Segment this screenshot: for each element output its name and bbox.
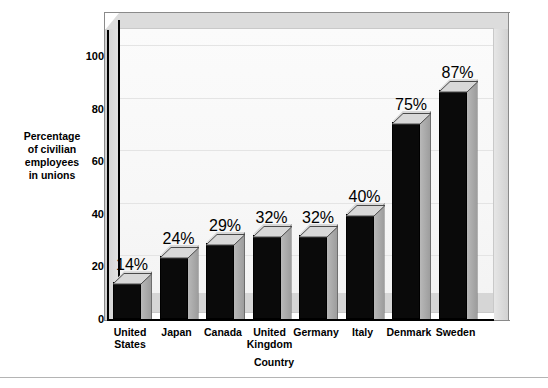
bar-side-face (281, 224, 292, 319)
bar-value-label-denmark: 75% (395, 96, 427, 114)
bar-germany[interactable] (299, 224, 338, 319)
bar-united-states[interactable] (113, 271, 152, 319)
frame-border-top (104, 12, 510, 13)
y-axis-line (107, 30, 109, 321)
y-tick-label-40: 40 (70, 209, 104, 220)
y-tick-label-80: 80 (70, 104, 104, 115)
y-axis-title-line: in unions (6, 169, 98, 182)
bar-italy[interactable] (346, 203, 385, 319)
bar-front-face (113, 282, 141, 319)
x-tick-label-sweden: Sweden (421, 326, 491, 338)
bar-side-face (374, 203, 385, 319)
y-tick-label-0: 0 (70, 314, 104, 325)
chart-figure: 020406080100 Percentageof civilianemploy… (0, 0, 548, 388)
bar-sweden[interactable] (439, 79, 478, 319)
bar-side-face (467, 79, 478, 319)
x-tick-label-line: Kingdom (235, 338, 305, 350)
gridline-100 (119, 45, 493, 46)
bar-denmark[interactable] (392, 111, 431, 319)
bar-front-face (346, 214, 374, 319)
x-axis-line (107, 319, 494, 321)
footer-rule (0, 377, 548, 378)
bar-front-face (206, 243, 234, 319)
bar-front-face (392, 122, 420, 319)
bar-value-label-japan: 24% (163, 230, 195, 248)
gridline-40 (119, 203, 493, 204)
bar-front-face (160, 256, 188, 319)
bar-japan[interactable] (160, 245, 199, 319)
bar-front-face (439, 90, 467, 319)
frame-border-left (104, 12, 105, 321)
y-tick-label-20: 20 (70, 261, 104, 272)
gridline-60 (119, 150, 493, 151)
bar-value-label-united-kingdom: 32% (256, 209, 288, 227)
x-axis-title: Country (0, 356, 548, 368)
plot-frame-right-ledge (494, 29, 509, 321)
x-tick-label-line: Sweden (421, 326, 491, 338)
y-tick-label-100: 100 (70, 51, 104, 62)
bar-side-face (327, 224, 338, 319)
y-axis-title: Percentageof civilianemployeesin unions (6, 130, 98, 182)
bar-value-label-germany: 32% (302, 209, 334, 227)
gridline-80 (119, 98, 493, 99)
bar-value-label-italy: 40% (349, 188, 381, 206)
bar-side-face (420, 111, 431, 319)
bar-value-label-sweden: 87% (442, 64, 474, 82)
frame-border-right (508, 12, 509, 321)
bar-front-face (299, 235, 327, 319)
bar-value-label-canada: 29% (209, 217, 241, 235)
bar-value-label-united-states: 14% (116, 256, 148, 274)
bar-front-face (253, 235, 281, 319)
bar-united-kingdom[interactable] (253, 224, 292, 319)
x-tick-label-line: States (95, 338, 165, 350)
y-axis-title-line: of civilian (6, 143, 98, 156)
y-axis-title-line: employees (6, 156, 98, 169)
bar-canada[interactable] (206, 232, 245, 319)
y-axis-title-line: Percentage (6, 130, 98, 143)
